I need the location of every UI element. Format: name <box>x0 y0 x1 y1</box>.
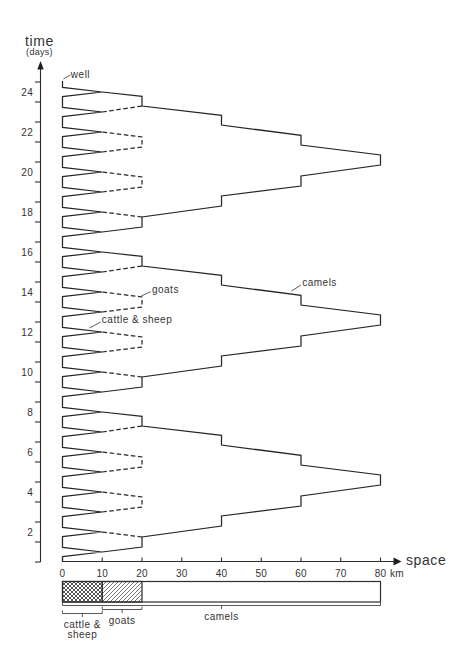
y-tick-label: 18 <box>21 207 33 218</box>
x-tick-label: 30 <box>176 568 188 579</box>
goats-path <box>102 332 142 352</box>
x-axis-unit: km <box>390 568 404 579</box>
range-bar-cattle-sheep <box>63 582 103 603</box>
y-ticks: 24681012141618202224 <box>21 82 40 562</box>
y-tick-label: 6 <box>27 447 33 458</box>
x-axis: 01020304050607080 km space <box>60 552 447 579</box>
camels-path <box>102 412 380 552</box>
annotation-leader <box>63 75 70 79</box>
y-tick-label: 22 <box>21 127 33 138</box>
goats-path <box>102 452 142 472</box>
x-axis-arrow-icon <box>394 558 402 566</box>
x-tick-label: 80 <box>375 568 387 579</box>
y-axis-arrow-icon <box>37 61 43 70</box>
range-label-cattle-sheep: sheep <box>68 629 98 640</box>
range-bracket-cattle-sheep <box>63 611 103 618</box>
range-label-cattle-sheep: cattle & <box>64 619 101 630</box>
goats-path <box>102 492 142 512</box>
y-tick-label: 20 <box>21 167 33 178</box>
x-tick-label: 70 <box>335 568 347 579</box>
range-label-camels: camels <box>204 611 239 622</box>
annotation-leader <box>291 285 301 291</box>
y-tick-label: 4 <box>27 487 33 498</box>
annotation-leader <box>90 322 101 328</box>
cattle-sheep-path <box>63 81 103 562</box>
x-tick-label: 0 <box>60 568 66 579</box>
y-tick-label: 24 <box>21 87 33 98</box>
y-tick-label: 8 <box>27 407 33 418</box>
y-axis-unit: (days) <box>26 47 53 57</box>
goats-path <box>102 172 142 192</box>
goats-path <box>102 292 142 312</box>
annotation-leader <box>141 292 151 296</box>
goats-path <box>102 106 142 112</box>
space-time-diagram: 24681012141618202224 time (days) 0102030… <box>0 0 463 668</box>
range-bracket-goats <box>102 607 142 614</box>
series-cattle-sheep <box>63 81 103 562</box>
goats-path <box>102 426 142 432</box>
y-tick-label: 16 <box>21 247 33 258</box>
y-tick-label: 2 <box>27 527 33 538</box>
annotation-well: well <box>63 69 90 80</box>
annotations: wellgoatscattle & sheepcamels <box>63 69 337 329</box>
goats-path <box>102 132 142 152</box>
annotation-goats: goats <box>141 284 179 297</box>
x-tick-label: 20 <box>136 568 148 579</box>
goats-path <box>102 266 142 272</box>
annotation-label: cattle & sheep <box>102 314 172 325</box>
goats-path <box>102 532 142 537</box>
goats-path <box>102 372 142 377</box>
x-tick-label: 10 <box>96 568 108 579</box>
annotation-cattle-sheep: cattle & sheep <box>90 314 173 328</box>
goats-path <box>102 212 142 217</box>
x-tick-label: 40 <box>216 568 228 579</box>
range-bracket-camels <box>63 603 381 610</box>
x-ticks: 01020304050607080 <box>60 558 387 579</box>
y-axis: 24681012141618202224 time (days) <box>21 33 54 562</box>
x-tick-label: 60 <box>295 568 307 579</box>
range-bar-goats <box>102 582 142 603</box>
camels-path <box>102 92 380 232</box>
y-tick-label: 14 <box>21 287 33 298</box>
annotation-label: camels <box>302 277 337 288</box>
range-label-goats: goats <box>109 615 136 626</box>
x-axis-title: space <box>406 552 446 568</box>
annotation-label: goats <box>152 284 179 295</box>
range-bar: camelsgoatscattle &sheep <box>63 582 381 641</box>
y-tick-label: 10 <box>21 367 33 378</box>
x-tick-label: 50 <box>255 568 267 579</box>
annotation-label: well <box>70 69 90 80</box>
annotation-camels: camels <box>291 277 336 291</box>
y-tick-label: 12 <box>21 327 33 338</box>
